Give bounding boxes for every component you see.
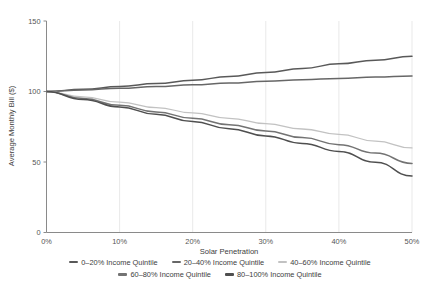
- legend-label: 20–40% Income Quintile: [184, 257, 265, 268]
- legend-item[interactable]: 0–20% Income Quintile: [69, 256, 157, 268]
- chart-legend: 0–20% Income Quintile20–40% Income Quint…: [0, 255, 440, 280]
- x-tick-label: 50%: [405, 237, 420, 246]
- legend-swatch-icon: [225, 273, 234, 275]
- series-line-5: [47, 92, 413, 177]
- axis-lines: [47, 21, 413, 233]
- y-tick-label: 100: [28, 87, 40, 96]
- legend-item[interactable]: 80–100% Income Quintile: [225, 269, 322, 281]
- x-tick-label: 0%: [41, 237, 52, 246]
- legend-swatch-icon: [118, 273, 127, 275]
- series-line-3: [47, 92, 413, 148]
- legend-swatch-icon: [278, 261, 287, 263]
- legend-item[interactable]: 60–80% Income Quintile: [118, 269, 211, 281]
- legend-label: 60–80% Income Quintile: [130, 269, 211, 280]
- series-line-4: [47, 92, 413, 164]
- gridlines: [120, 21, 412, 233]
- y-tick-labels: 050100150: [28, 17, 46, 238]
- y-tick-label: 150: [28, 17, 40, 26]
- x-tick-label: 20%: [185, 237, 200, 246]
- y-tick-label: 0: [36, 228, 40, 237]
- x-tick-label: 10%: [112, 237, 127, 246]
- series-lines: [47, 56, 413, 176]
- x-tick-label: 40%: [332, 237, 347, 246]
- series-line-2: [47, 76, 413, 92]
- chart-figure: 050100150 0%10%20%30%40%50% Average Mont…: [0, 0, 440, 291]
- legend-label: 40–60% Income Quintile: [290, 257, 371, 268]
- line-chart-plot: 050100150 0%10%20%30%40%50% Average Mont…: [0, 0, 440, 291]
- x-tick-labels: 0%10%20%30%40%50%: [41, 237, 420, 246]
- x-tick-label: 30%: [258, 237, 273, 246]
- series-line-1: [47, 56, 413, 91]
- legend-row-1: 0–20% Income Quintile20–40% Income Quint…: [0, 255, 440, 268]
- y-axis-title: Average Monthly Bill ($): [7, 85, 16, 166]
- legend-swatch-icon: [69, 261, 78, 263]
- legend-label: 80–100% Income Quintile: [237, 269, 322, 280]
- legend-swatch-icon: [172, 261, 181, 263]
- legend-label: 0–20% Income Quintile: [81, 257, 157, 268]
- legend-row-2: 60–80% Income Quintile80–100% Income Qui…: [0, 268, 440, 281]
- legend-item[interactable]: 40–60% Income Quintile: [278, 256, 371, 268]
- y-tick-label: 50: [32, 158, 40, 167]
- legend-item[interactable]: 20–40% Income Quintile: [172, 256, 265, 268]
